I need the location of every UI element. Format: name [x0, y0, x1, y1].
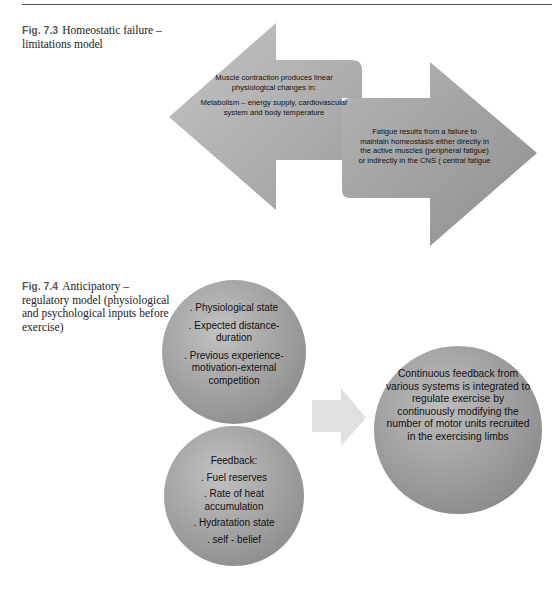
arrow-right-icon [312, 388, 366, 446]
left-arrow-text: Muscle contraction produces linear physi… [199, 73, 349, 123]
circle-outcome-text: Continuous feedback from various systems… [383, 368, 533, 444]
left-arrow-line: Metabolism – energy supply, cardiovascul… [199, 98, 349, 117]
circle-item: . Rate of heat accumulation [174, 488, 294, 513]
circle-item: . self - belief [174, 534, 294, 547]
circle-item: . Expected distance-duration [174, 320, 294, 345]
circle-item: . Hydratation state [174, 517, 294, 530]
left-arrow-line: Muscle contraction produces linear physi… [199, 73, 349, 92]
circle-feedback-text: Feedback: . Fuel reserves . Rate of heat… [174, 455, 294, 550]
right-arrow-text: Fatigue results from a failure to mainta… [357, 127, 492, 165]
circle-item: . Previous experience-motivation-externa… [174, 350, 294, 388]
circle-item: . Fuel reserves [174, 472, 294, 485]
circle-inputs-text: . Physiological state . Expected distanc… [174, 302, 294, 392]
circle-item: . Physiological state [174, 302, 294, 315]
circle-item: Feedback: [174, 455, 294, 468]
